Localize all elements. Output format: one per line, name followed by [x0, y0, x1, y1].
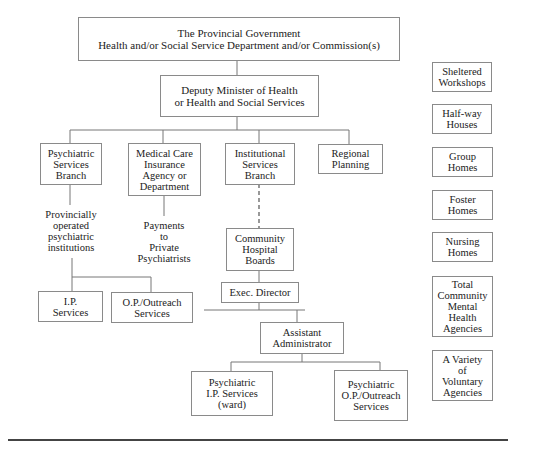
psychiatric-ip-ward-box: Psychiatric I.P. Services (ward): [191, 371, 273, 416]
op-outreach-services-box: O.P./Outreach Services: [111, 292, 193, 323]
foster-homes-box: Foster Homes: [432, 190, 493, 220]
payments-private-label: Payments to Private Psychiatrists: [122, 218, 206, 266]
exec-director-box: Exec. Director: [221, 282, 299, 303]
medical-care-insurance-box: Medical Care Insurance Agency or Departm…: [128, 143, 201, 196]
psychiatric-services-branch-box: Psychiatric Services Branch: [40, 143, 102, 185]
half-way-houses-box: Half-way Houses: [432, 104, 492, 134]
ip-services-box: I.P. Services: [38, 291, 103, 322]
total-community-mental-health-box: Total Community Mental Health Agencies: [432, 276, 493, 337]
assistant-administrator-box: Assistant Administrator: [260, 322, 344, 354]
community-hospital-boards-box: Community Hospital Boards: [226, 228, 294, 271]
psychiatric-op-outreach-box: Psychiatric O.P./Outreach Services: [334, 370, 408, 421]
group-homes-box: Group Homes: [432, 147, 493, 177]
institutional-services-branch-box: Institutional Services Branch: [225, 143, 295, 185]
regional-planning-box: Regional Planning: [318, 144, 383, 174]
voluntary-agencies-box: A Variety of Voluntary Agencies: [432, 350, 493, 401]
provincially-operated-label: Provincially operated psychiatric instit…: [30, 207, 112, 255]
sheltered-workshops-box: Sheltered Workshops: [432, 62, 492, 92]
nursing-homes-box: Nursing Homes: [432, 232, 493, 262]
deputy-minister-box: Deputy Minister of Health or Health and …: [160, 75, 319, 117]
provincial-government-box: The Provincial Government Health and/or …: [78, 17, 400, 61]
